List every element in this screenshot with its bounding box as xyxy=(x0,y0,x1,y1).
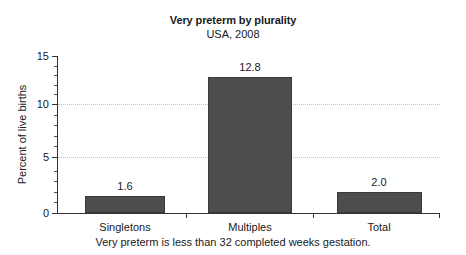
bar-singletons[interactable] xyxy=(85,196,165,213)
x-axis-line xyxy=(57,213,440,214)
y-tick-label-5: 5 xyxy=(43,152,49,163)
y-tick-minor xyxy=(54,115,57,116)
y-tick-minor xyxy=(54,75,57,76)
plot-area: 0 5 10 15 xyxy=(57,56,440,213)
category-label-multiples: Multiples xyxy=(228,222,271,233)
y-axis-title: Percent of live births xyxy=(15,56,29,213)
y-tick-minor xyxy=(54,181,57,182)
bar-multiples[interactable] xyxy=(208,77,292,213)
chart-footnote: Very preterm is less than 32 completed w… xyxy=(0,236,466,248)
y-tick-minor xyxy=(54,136,57,137)
y-tick-label-15: 15 xyxy=(37,51,49,62)
y-tick-label-10: 10 xyxy=(37,99,49,110)
x-tick-end xyxy=(439,213,440,218)
bar-value-total: 2.0 xyxy=(371,177,386,188)
category-label-total: Total xyxy=(367,222,390,233)
y-tick-minor xyxy=(54,125,57,126)
y-tick-minor xyxy=(54,94,57,95)
x-tick-separator xyxy=(313,213,314,218)
y-tick-minor xyxy=(54,146,57,147)
y-tick-label-0: 0 xyxy=(43,208,49,219)
y-tick-minor xyxy=(54,66,57,67)
chart-title: Very preterm by plurality xyxy=(0,14,466,26)
category-label-singletons: Singletons xyxy=(99,222,150,233)
y-tick-minor xyxy=(54,192,57,193)
bar-value-multiples: 12.8 xyxy=(239,62,260,73)
chart-subtitle: USA, 2008 xyxy=(0,28,466,40)
x-tick-separator xyxy=(186,213,187,218)
y-tick-minor xyxy=(54,85,57,86)
y-tick-minor xyxy=(54,202,57,203)
y-tick-minor xyxy=(54,171,57,172)
chart-figure: Very preterm by plurality USA, 2008 Perc… xyxy=(0,0,466,255)
bar-value-singletons: 1.6 xyxy=(117,181,132,192)
y-axis-line xyxy=(57,56,58,213)
bar-total[interactable] xyxy=(337,192,422,213)
